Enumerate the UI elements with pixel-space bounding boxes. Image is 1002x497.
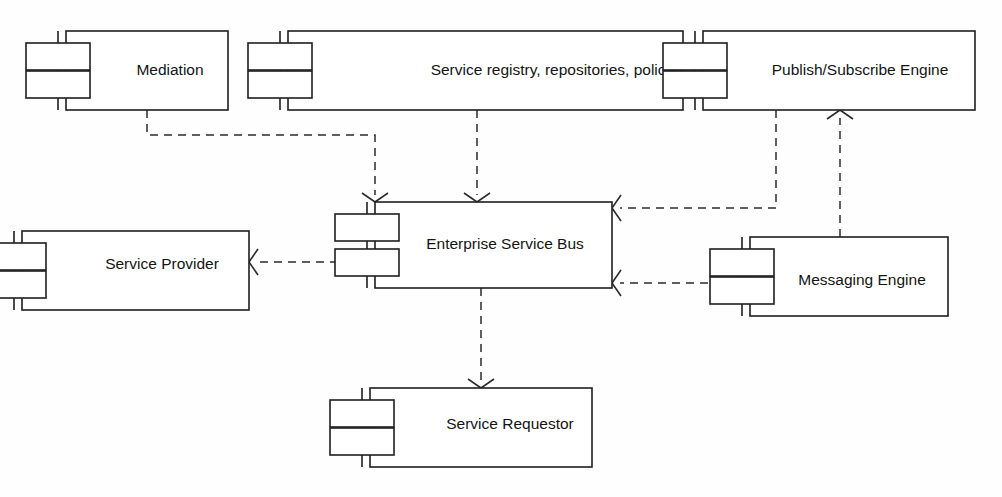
dependency-line <box>620 110 776 208</box>
component-tab-lower <box>330 428 394 455</box>
component-tab-lower <box>710 277 774 304</box>
dependency-messaging-to-pubsub[interactable] <box>827 110 853 237</box>
component-messaging-engine[interactable]: Messaging Engine <box>710 237 948 316</box>
component-label: Publish/Subscribe Engine <box>772 61 949 78</box>
component-tab-upper <box>330 400 394 427</box>
dependency-arrowhead-icon <box>249 249 258 275</box>
component-tab-upper <box>663 43 727 70</box>
component-tab-upper <box>248 43 312 70</box>
dependency-arrowhead-icon <box>827 110 853 119</box>
component-label: Enterprise Service Bus <box>426 235 584 252</box>
component-label: Service Requestor <box>446 415 574 432</box>
component-label: Messaging Engine <box>798 271 926 288</box>
component-tab-lower <box>26 71 90 98</box>
component-publish-subscribe-engine[interactable]: Publish/Subscribe Engine <box>663 31 975 110</box>
diagram-canvas: MediationService registry, repositories,… <box>0 0 1002 497</box>
component-tab-lower <box>335 249 399 276</box>
component-enterprise-service-bus[interactable]: Enterprise Service Bus <box>335 202 612 288</box>
component-tab-lower <box>248 71 312 98</box>
component-label: Service Provider <box>105 255 219 272</box>
dependency-registry-to-esb[interactable] <box>464 110 490 202</box>
component-layer: MediationService registry, repositories,… <box>0 31 975 467</box>
component-label: Mediation <box>136 61 203 78</box>
dependency-line <box>147 110 375 195</box>
component-tab-upper <box>710 249 774 276</box>
dependency-esb-to-service-requestor[interactable] <box>468 288 494 388</box>
component-tab-upper <box>0 243 46 270</box>
component-service-provider[interactable]: Service Provider <box>0 231 249 310</box>
component-service-requestor[interactable]: Service Requestor <box>330 388 592 467</box>
component-service-registry[interactable]: Service registry, repositories, policies <box>248 31 686 110</box>
uml-component-diagram: MediationService registry, repositories,… <box>0 0 1002 497</box>
dependency-mediation-to-esb[interactable] <box>147 110 388 202</box>
dependency-arrowhead-icon <box>468 379 494 388</box>
component-tab-lower <box>663 71 727 98</box>
dependency-arrowhead-icon <box>612 270 621 296</box>
component-tab-upper <box>335 214 399 241</box>
component-tab-upper <box>26 43 90 70</box>
component-mediation[interactable]: Mediation <box>26 31 228 110</box>
component-tab-lower <box>0 271 46 298</box>
component-label: Service registry, repositories, policies <box>431 61 686 78</box>
dependency-arrowhead-icon <box>612 195 621 221</box>
dependency-pubsub-to-esb[interactable] <box>612 110 776 221</box>
